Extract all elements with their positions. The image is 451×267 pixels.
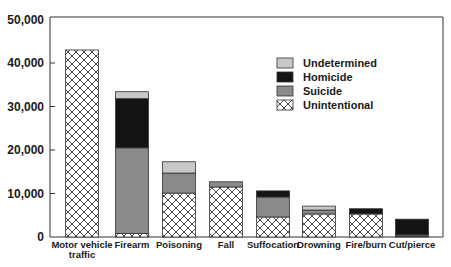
bars xyxy=(66,50,429,237)
legend-item-homicide: Homicide xyxy=(277,71,353,83)
bar-drowning xyxy=(303,206,336,237)
bar-cut-pierce xyxy=(396,219,429,237)
bar-segment-undetermined xyxy=(116,92,149,99)
bar-segment-suicide xyxy=(303,210,336,214)
x-tick-label: traffic xyxy=(69,249,95,260)
x-tick-label: Suffocation xyxy=(247,239,299,250)
x-tick-label: Fall xyxy=(218,239,234,250)
bar-segment-suicide xyxy=(163,173,196,193)
bar-poisoning xyxy=(163,162,196,237)
legend-label: Homicide xyxy=(303,71,353,83)
stacked-bar-chart: 010,00020,00030,00040,00050,000 Motor ve… xyxy=(0,0,451,267)
y-tick-label: 20,000 xyxy=(7,143,44,157)
legend-label: Undetermined xyxy=(303,57,377,69)
bar-segment-unintentional xyxy=(210,187,243,237)
legend-swatch xyxy=(277,58,293,68)
legend-swatch xyxy=(277,100,293,110)
legend-label: Suicide xyxy=(303,85,342,97)
legend-item-unintentional: Unintentional xyxy=(277,99,373,111)
bar-segment-unintentional xyxy=(303,214,336,237)
bar-segment-unintentional xyxy=(66,50,99,237)
x-tick-label: Drowning xyxy=(297,239,341,250)
bar-segment-suicide xyxy=(210,182,243,187)
bar-firearm xyxy=(116,92,149,237)
bar-segment-homicide xyxy=(116,99,149,148)
y-tick-label: 50,000 xyxy=(7,13,44,27)
x-tick-label: Poisoning xyxy=(156,239,202,250)
y-tick-label: 0 xyxy=(37,230,44,244)
bar-segment-undetermined xyxy=(163,162,196,173)
bar-fire-burn xyxy=(350,209,383,237)
bar-segment-suicide xyxy=(116,148,149,234)
legend-swatch xyxy=(277,72,293,82)
x-axis-labels: Motor vehicletrafficFirearmPoisoningFall… xyxy=(51,239,435,260)
bar-segment-homicide xyxy=(257,191,290,197)
legend-swatch xyxy=(277,86,293,96)
bar-segment-undetermined xyxy=(303,206,336,210)
bar-segment-unintentional xyxy=(116,234,149,237)
y-tick-label: 30,000 xyxy=(7,100,44,114)
legend: UndeterminedHomicideSuicideUnintentional xyxy=(277,57,377,111)
bar-segment-homicide xyxy=(350,209,383,214)
bar-segment-suicide xyxy=(257,197,290,217)
x-tick-label: Firearm xyxy=(115,239,150,250)
bar-segment-unintentional xyxy=(350,214,383,237)
x-tick-label: Fire/burn xyxy=(345,239,386,250)
bar-segment-unintentional xyxy=(163,193,196,237)
bar-motor-vehicle-traffic xyxy=(66,50,99,237)
plot-area xyxy=(50,17,443,237)
x-tick-label: Cut/pierce xyxy=(389,239,435,250)
legend-label: Unintentional xyxy=(303,99,373,111)
bar-segment-homicide xyxy=(396,219,429,235)
bar-fall xyxy=(210,182,243,237)
y-axis: 010,00020,00030,00040,00050,000 xyxy=(7,13,55,245)
y-tick-label: 40,000 xyxy=(7,56,44,70)
legend-item-suicide: Suicide xyxy=(277,85,342,97)
bar-segment-unintentional xyxy=(257,217,290,237)
y-tick-label: 10,000 xyxy=(7,187,44,201)
legend-item-undetermined: Undetermined xyxy=(277,57,377,69)
bar-suffocation xyxy=(257,191,290,237)
